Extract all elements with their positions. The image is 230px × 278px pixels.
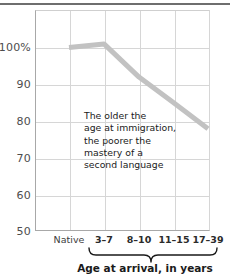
chart-annotation: The older the age at immigration, the po… [84,110,184,171]
x-axis-title-text: Age at arrival, in years [17,262,213,274]
x-axis-label-3-7: 3–7 [95,234,113,245]
x-axis-label-17-39: 17–39 [192,234,223,245]
chart-figure: 100% 90 80 70 60 50 Native 3–7 8–10 11–1… [0,0,230,278]
x-axis-label-8-10: 8–10 [127,234,152,245]
annotation-line-2: age at immigration, [84,122,184,134]
category-brace [89,248,217,262]
annotation-line-5: second language [84,159,184,171]
x-axis-label-native: Native [54,234,85,245]
x-axis-title: Age at arrival, in years [0,262,230,274]
x-axis-label-11-15: 11–15 [158,234,189,245]
annotation-line-3: the poorer the [84,135,184,147]
annotation-line-4: mastery of a [84,147,184,159]
annotation-line-1: The older the [84,110,184,122]
